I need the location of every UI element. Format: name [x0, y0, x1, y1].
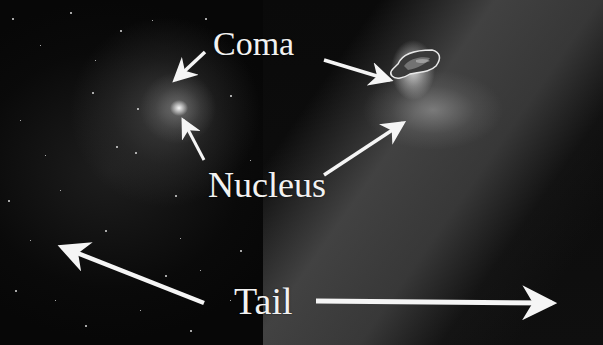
tail-label: Tail	[234, 282, 293, 320]
comet-diagram: Coma Nucleus Tail	[0, 0, 603, 345]
comet-nucleus-image	[386, 48, 442, 80]
nucleus-label: Nucleus	[208, 167, 326, 203]
coma-label: Coma	[213, 27, 294, 61]
